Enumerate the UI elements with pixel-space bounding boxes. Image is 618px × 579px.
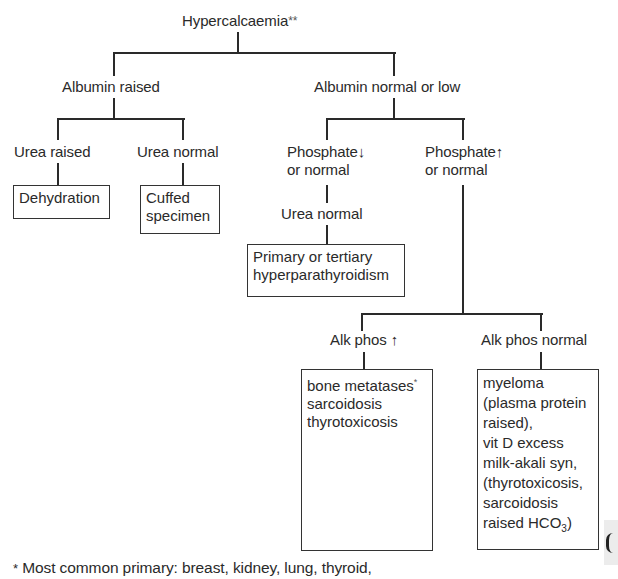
phosphate-high-label: Phosphate: [425, 143, 496, 160]
root-label: Hypercalcaemia: [182, 12, 288, 29]
myeloma-line: raised),: [483, 413, 593, 433]
cuffed-line-1: Cuffed: [146, 189, 214, 207]
bone-marker: *: [414, 377, 418, 387]
arrow-up-icon: ↑: [391, 331, 398, 348]
arrow-up-icon: ↑: [496, 143, 503, 160]
phosphate-high-node: Phosphate↑ or normal: [425, 143, 503, 179]
connector: [326, 118, 465, 120]
myeloma-line: myeloma: [483, 373, 593, 393]
connector: [182, 163, 184, 186]
primary-hyperparathyroidism-box: Primary or tertiary hyperparathyroidism: [247, 244, 405, 297]
myeloma-line: (plasma protein: [483, 393, 593, 413]
urea-normal-right-node: Urea normal: [281, 205, 362, 223]
connector: [113, 52, 396, 54]
myeloma-line: (thyrotoxicosis,: [483, 473, 593, 493]
alk-phos-high-node: Alk phos ↑: [330, 331, 398, 349]
bone-line-1: bone metatases: [307, 377, 414, 394]
connector: [393, 52, 395, 76]
connector: [326, 185, 328, 203]
root-node: Hypercalcaemia**: [182, 12, 297, 30]
connector: [361, 313, 543, 315]
bone-line-3: thyrotoxicosis: [307, 413, 427, 431]
cropped-glyph: [606, 533, 613, 553]
bone-metastases-box: bone metatases* sarcoidosis thyrotoxicos…: [301, 369, 433, 551]
myeloma-line: sarcoidosis: [483, 493, 593, 513]
phosphate-high-line2: or normal: [425, 161, 503, 179]
phosphate-low-line2: or normal: [287, 161, 365, 179]
footnote-marker: *: [13, 561, 18, 576]
connector: [237, 32, 239, 54]
connector: [462, 118, 464, 140]
alk-phos-normal-node: Alk phos normal: [481, 331, 587, 349]
connector: [57, 118, 185, 120]
connector: [57, 118, 59, 140]
myeloma-box: myeloma (plasma protein raised), vit D e…: [477, 369, 599, 550]
urea-normal-node: Urea normal: [137, 143, 218, 161]
myeloma-line: milk-akali syn,: [483, 453, 593, 473]
connector: [540, 313, 542, 331]
dehydration-box: Dehydration: [13, 185, 110, 219]
connector: [462, 185, 464, 315]
myeloma-last-suffix: ): [567, 514, 572, 531]
albumin-normal-low-node: Albumin normal or low: [314, 78, 460, 96]
connector: [363, 352, 365, 370]
connector: [361, 313, 363, 331]
footnote: * Most common primary: breast, kidney, l…: [13, 559, 372, 578]
arrow-down-icon: ↓: [358, 143, 365, 160]
primary-line-2: hyperparathyroidism: [253, 266, 399, 284]
root-marker: **: [288, 14, 297, 28]
connector: [57, 163, 59, 186]
cuffed-line-2: specimen: [146, 207, 214, 225]
connector: [182, 118, 184, 140]
connector: [113, 52, 115, 76]
connector: [113, 98, 115, 120]
footnote-text: Most common primary: breast, kidney, lun…: [22, 559, 372, 576]
cuffed-specimen-box: Cuffed specimen: [140, 185, 220, 234]
urea-raised-node: Urea raised: [14, 143, 90, 161]
albumin-raised-node: Albumin raised: [62, 78, 160, 96]
myeloma-last-prefix: raised HCO: [483, 514, 561, 531]
phosphate-low-node: Phosphate↓ or normal: [287, 143, 365, 179]
bone-line-2: sarcoidosis: [307, 395, 427, 413]
connector: [326, 225, 328, 245]
connector: [393, 98, 395, 120]
dehydration-label: Dehydration: [19, 189, 100, 206]
alk-phos-high-label: Alk phos: [330, 331, 387, 348]
primary-line-1: Primary or tertiary: [253, 248, 399, 266]
connector: [540, 352, 542, 370]
myeloma-line: vit D excess: [483, 433, 593, 453]
phosphate-low-label: Phosphate: [287, 143, 358, 160]
connector: [326, 118, 328, 140]
